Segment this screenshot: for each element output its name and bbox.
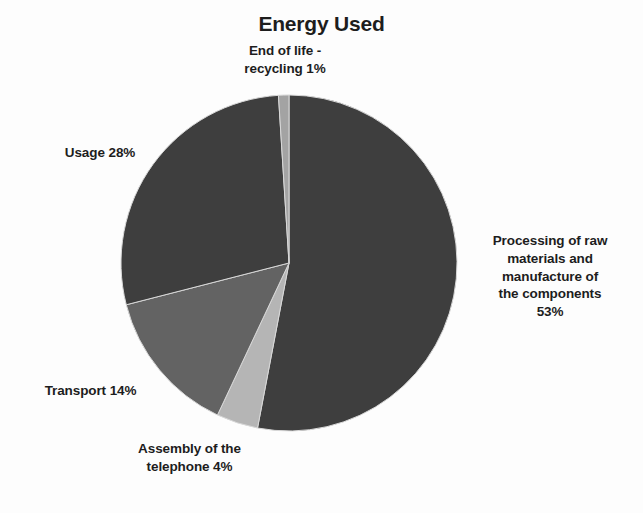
pie-label-end-of-life-line1: End of life -: [190, 42, 380, 60]
pie-label-processing-line3: manufacture of: [466, 268, 634, 286]
pie-label-processing-line4: the components: [466, 285, 634, 303]
pie-label-processing-line5: 53%: [466, 303, 634, 321]
pie-label-processing: Processing of raw materials and manufact…: [466, 232, 634, 321]
pie-label-transport: Transport 14%: [8, 382, 173, 400]
pie-label-processing-line1: Processing of raw: [466, 232, 634, 250]
pie-label-end-of-life: End of life - recycling 1%: [190, 42, 380, 78]
pie-label-assembly-line1: Assembly of the: [82, 440, 297, 458]
pie-label-usage-line1: Usage 28%: [30, 144, 170, 162]
pie-chart-figure: Energy Used End of life - recycling 1% U…: [0, 0, 643, 513]
pie-label-usage: Usage 28%: [30, 144, 170, 162]
pie-label-assembly-line2: telephone 4%: [82, 458, 297, 476]
pie-label-transport-line1: Transport 14%: [8, 382, 173, 400]
pie-slice-group: [121, 95, 457, 431]
pie-label-end-of-life-line2: recycling 1%: [190, 60, 380, 78]
pie-label-processing-line2: materials and: [466, 250, 634, 268]
pie-label-assembly: Assembly of the telephone 4%: [82, 440, 297, 476]
